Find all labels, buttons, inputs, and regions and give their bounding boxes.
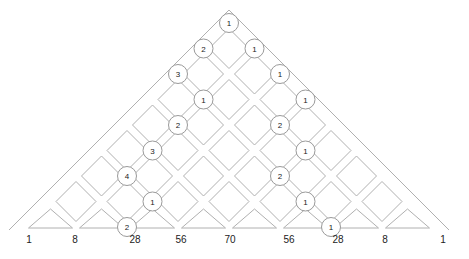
pascal-lattice-diagram: 12131112231421121 xyxy=(0,0,469,259)
path-count-node: 3 xyxy=(169,65,188,84)
path-count-node: 2 xyxy=(271,116,290,135)
node-count-label: 1 xyxy=(303,147,308,156)
diamond-block xyxy=(311,131,351,171)
diamond-block xyxy=(133,105,173,145)
diamond-block xyxy=(107,182,147,222)
node-count-label: 2 xyxy=(278,172,283,181)
diamond-block xyxy=(260,80,300,120)
path-count-node: 1 xyxy=(271,65,290,84)
diamond-blocks xyxy=(29,29,430,229)
path-count-node: 1 xyxy=(194,90,213,109)
node-count-label: 1 xyxy=(278,70,283,79)
diamond-block xyxy=(133,156,173,196)
path-count-node: 2 xyxy=(194,39,213,58)
diamond-block xyxy=(235,54,275,94)
path-count-node: 1 xyxy=(220,14,239,33)
path-count-node: 1 xyxy=(245,39,264,58)
path-count-node: 3 xyxy=(143,141,162,160)
diamond-block xyxy=(56,182,96,222)
path-count-node: 1 xyxy=(296,192,315,211)
diamond-block xyxy=(184,54,224,94)
diamond-block xyxy=(235,156,275,196)
node-count-label: 2 xyxy=(125,223,130,232)
binomial-label: 8 xyxy=(72,234,78,245)
node-count-label: 2 xyxy=(201,45,206,54)
binomial-label: 70 xyxy=(224,234,235,245)
diamond-block xyxy=(158,131,198,171)
node-count-label: 1 xyxy=(303,96,308,105)
node-count-label: 1 xyxy=(329,223,334,232)
diamond-block xyxy=(362,182,402,222)
node-count-label: 2 xyxy=(176,121,181,130)
diamond-block xyxy=(337,156,377,196)
diamond-block xyxy=(209,29,249,69)
diamond-block xyxy=(158,182,198,222)
node-count-label: 3 xyxy=(176,70,181,79)
diamond-block xyxy=(311,182,351,222)
diamond-block xyxy=(286,156,326,196)
binomial-label: 1 xyxy=(440,234,446,245)
node-count-label: 3 xyxy=(150,147,155,156)
diamond-block xyxy=(209,182,249,222)
binomial-label: 56 xyxy=(283,234,294,245)
node-count-label: 1 xyxy=(252,45,257,54)
diamond-block xyxy=(209,131,249,171)
diamond-block xyxy=(209,80,249,120)
diamond-block xyxy=(158,80,198,120)
path-count-circles: 12131112231421121 xyxy=(118,14,341,237)
diamond-block xyxy=(82,156,122,196)
node-count-label: 1 xyxy=(150,198,155,207)
path-count-node: 2 xyxy=(271,167,290,186)
diamond-block xyxy=(260,182,300,222)
binomial-label: 28 xyxy=(332,234,343,245)
diamond-block xyxy=(184,105,224,145)
path-count-node: 2 xyxy=(169,116,188,135)
diamond-block xyxy=(235,105,275,145)
binomial-label: 1 xyxy=(26,234,32,245)
node-count-label: 4 xyxy=(125,172,130,181)
path-count-node: 1 xyxy=(143,192,162,211)
diamond-block xyxy=(286,105,326,145)
node-count-label: 1 xyxy=(201,96,206,105)
diamond-block xyxy=(107,131,147,171)
binomial-label: 8 xyxy=(382,234,388,245)
binomial-label: 28 xyxy=(129,234,140,245)
path-count-node: 4 xyxy=(118,167,137,186)
diamond-block xyxy=(260,131,300,171)
node-count-label: 1 xyxy=(227,19,232,28)
diamond-block xyxy=(184,156,224,196)
node-count-label: 1 xyxy=(303,198,308,207)
node-count-label: 2 xyxy=(278,121,283,130)
path-count-node: 1 xyxy=(296,90,315,109)
path-count-node: 1 xyxy=(296,141,315,160)
binomial-label: 56 xyxy=(175,234,186,245)
